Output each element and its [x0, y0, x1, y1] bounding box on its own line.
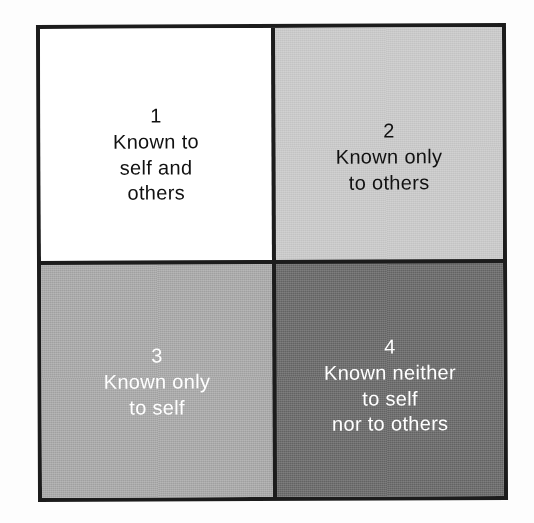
quadrant-1-number: 1	[113, 102, 199, 128]
quadrant-2-text: 2 Known only to others	[336, 117, 443, 196]
quadrant-1-line-3: others	[113, 181, 199, 207]
quadrant-2-line-2: to others	[336, 170, 443, 196]
quadrant-4-text: 4 Known neither to self nor to others	[324, 333, 456, 437]
quadrant-1-open-area: 1 Known to self and others	[40, 28, 272, 261]
quadrant-1-text: 1 Known to self and others	[113, 102, 199, 206]
quadrant-3-number: 3	[104, 342, 211, 368]
quadrant-4-line-2: to self	[324, 386, 456, 412]
quadrant-4-line-3: nor to others	[324, 411, 456, 437]
quadrant-4-line-1: Known neither	[324, 360, 456, 386]
quadrant-2-number: 2	[336, 117, 443, 143]
quadrant-3-text: 3 Known only to self	[104, 342, 211, 421]
quadrant-1-line-2: self and	[113, 155, 199, 181]
quadrant-3-hidden-area: 3 Known only to self	[41, 260, 273, 498]
quadrant-2-blind-area: 2 Known only to others	[271, 27, 503, 260]
quadrant-1-line-1: Known to	[113, 129, 199, 155]
quadrant-4-number: 4	[324, 333, 456, 360]
quadrant-3-line-2: to self	[104, 395, 211, 421]
quadrant-3-line-1: Known only	[104, 369, 211, 395]
quadrant-2-line-1: Known only	[336, 144, 443, 170]
johari-window-diagram: 1 Known to self and others 2 Known only …	[36, 23, 508, 502]
quadrant-4-unknown-area: 4 Known neither to self nor to others	[272, 259, 504, 497]
